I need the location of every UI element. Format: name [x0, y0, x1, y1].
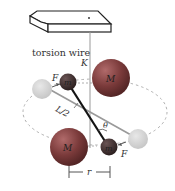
cavendish-diagram: torsion wire K F m M L/2 θ M m F r [0, 0, 175, 191]
force-arrow-top [52, 83, 60, 87]
M-top-label: M [105, 74, 116, 84]
mount-block [30, 11, 111, 32]
f-bottom-label: F [120, 149, 128, 159]
M-bottom-label: M [62, 143, 73, 153]
torsion-wire-label: torsion wire [32, 47, 91, 58]
k-label: K [80, 58, 89, 68]
l-half-label: L/2 [53, 103, 71, 119]
ghost-mass-right [128, 129, 148, 149]
theta-label: θ [103, 121, 108, 130]
m-bottom-label: m [105, 144, 113, 153]
r-label: r [87, 167, 92, 177]
f-top-label: F [51, 73, 59, 83]
m-top-label: m [64, 78, 72, 87]
ghost-mass-left [32, 79, 52, 99]
